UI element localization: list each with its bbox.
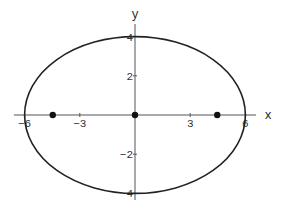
- y-tick-label: 4: [126, 32, 133, 44]
- y-tick-label: 2: [126, 71, 133, 83]
- left-focus-point: [50, 112, 56, 118]
- x-axis-label: x: [264, 109, 271, 123]
- y-tick-label: 4: [126, 188, 133, 200]
- y-axis-label: y: [131, 8, 138, 22]
- center-point: [132, 112, 138, 118]
- y-tick-label: −2: [120, 149, 133, 161]
- right-focus-point: [214, 112, 220, 118]
- x-tick-label: 3: [187, 118, 194, 130]
- x-tick-label: −3: [73, 118, 86, 130]
- ellipse-plot: −6−336 42−24 x y: [0, 0, 287, 211]
